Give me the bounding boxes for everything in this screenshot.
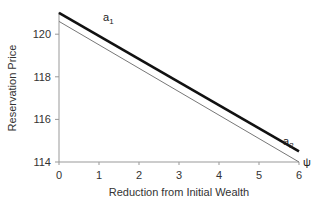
reservation-price-chart: 114116118120 0123456 a1a2ψ Reduction fro… (0, 0, 324, 211)
x-tick-label: 0 (56, 169, 62, 181)
y-tick-label: 120 (33, 28, 51, 40)
x-tick-label: 2 (136, 169, 142, 181)
x-tick-label: 4 (216, 169, 222, 181)
annotation-psi: ψ (303, 156, 311, 168)
x-tick-label: 1 (96, 169, 102, 181)
y-tick-label: 118 (33, 71, 51, 83)
x-axis-ticks: 0123456 (56, 162, 302, 181)
y-axis-ticks: 114116118120 (33, 28, 59, 168)
series-line-a2 (59, 21, 299, 162)
annotation-a1: a1 (103, 11, 114, 26)
x-tick-label: 6 (296, 169, 302, 181)
line-annotations: a1a2ψ (103, 11, 311, 168)
x-tick-label: 3 (176, 169, 182, 181)
y-tick-label: 114 (33, 156, 51, 168)
annotation-a2: a2 (283, 135, 294, 150)
series-lines (59, 13, 299, 162)
y-tick-label: 116 (33, 113, 51, 125)
y-axis-title: Reservation Price (6, 45, 18, 132)
x-axis-title: Reduction from Initial Wealth (109, 186, 249, 198)
x-tick-label: 5 (256, 169, 262, 181)
series-line-a1 (59, 13, 299, 151)
